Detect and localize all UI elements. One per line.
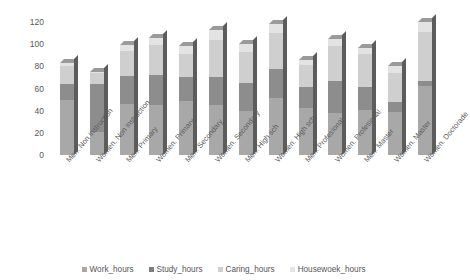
bar-segment-caring_hours xyxy=(149,45,163,75)
bar-segment-caring_hours xyxy=(299,65,313,87)
bar-segment-housewoek_hours xyxy=(149,38,163,46)
bar-segment-caring_hours xyxy=(90,73,104,84)
bar-segment-caring_hours xyxy=(358,54,372,87)
bar-segment-study_hours xyxy=(358,87,372,109)
bar-segment-housewoek_hours xyxy=(388,66,402,73)
bar-segment-work_hours xyxy=(60,100,74,155)
legend-label: Work_hours xyxy=(90,265,134,274)
legend-label: Caring_hours xyxy=(226,265,275,274)
x-axis-label-slot: Men. Secondary xyxy=(174,155,204,250)
x-axis-label-slot: Men. High sch xyxy=(234,155,264,250)
bar-segment-housewoek_hours xyxy=(209,30,223,40)
stacked-bar[interactable] xyxy=(388,66,402,155)
bar-segment-study_hours xyxy=(269,69,283,99)
bar-segment-study_hours xyxy=(149,75,163,105)
bar-segment-study_hours xyxy=(179,77,193,100)
bar-segment-caring_hours xyxy=(269,33,283,68)
bar-segment-study_hours xyxy=(239,83,253,111)
y-axis-tick-40: 40 xyxy=(35,106,44,115)
legend-label: Study_hours xyxy=(157,265,203,274)
bar-segment-study_hours xyxy=(120,76,134,104)
x-axis-label-slot: Women. Non instruction xyxy=(85,155,115,250)
x-axis-label-slot: Men. Profesional xyxy=(294,155,324,250)
y-axis-tick-120: 120 xyxy=(30,18,44,27)
y-axis-tick-0: 0 xyxy=(39,151,44,160)
bar-segment-housewoek_hours xyxy=(418,22,432,32)
bar-segment-housewoek_hours xyxy=(239,44,253,52)
legend-item-caring_hours[interactable]: Caring_hours xyxy=(218,265,275,274)
legend-swatch-icon xyxy=(290,267,295,272)
y-axis-tick-60: 60 xyxy=(35,84,44,93)
bar-segment-study_hours xyxy=(209,77,223,105)
bar-segment-caring_hours xyxy=(239,52,253,83)
bar-segment-caring_hours xyxy=(388,73,402,102)
y-axis-tick-100: 100 xyxy=(30,40,44,49)
y-axis-tick-80: 80 xyxy=(35,62,44,71)
bar-segment-housewoek_hours xyxy=(179,46,193,54)
x-axis-label-slot: Women. Primary xyxy=(145,155,175,250)
bar-segment-study_hours xyxy=(299,87,313,108)
chart-legend: Work_hoursStudy_hoursCaring_hoursHousewo… xyxy=(0,265,447,274)
legend-label: Housewoek_hours xyxy=(298,265,366,274)
stacked-bar[interactable] xyxy=(60,63,74,155)
x-axis-label-slot: Men. Primary xyxy=(115,155,145,250)
bar-slot xyxy=(55,22,85,155)
y-axis: 020406080100120 xyxy=(0,14,52,164)
bar-segment-housewoek_hours xyxy=(269,24,283,33)
y-axis-tick-20: 20 xyxy=(35,129,44,138)
bar-segment-caring_hours xyxy=(60,66,74,84)
bar-segment-caring_hours xyxy=(418,32,432,81)
legend-item-housewoek_hours[interactable]: Housewoek_hours xyxy=(290,265,366,274)
x-axis: Men. Non instructionWomen. Non instructi… xyxy=(55,155,443,250)
bar-segment-study_hours xyxy=(60,84,74,100)
bar-segment-caring_hours xyxy=(120,51,134,76)
legend-item-work_hours[interactable]: Work_hours xyxy=(82,265,134,274)
x-axis-label-slot: Men. Non instruction xyxy=(55,155,85,250)
x-axis-label-slot: Women. Doctorade xyxy=(413,155,443,250)
x-axis-label-slot: Women. High sch xyxy=(264,155,294,250)
legend-swatch-icon xyxy=(218,267,223,272)
x-axis-label-slot: Women. Master xyxy=(383,155,413,250)
legend-item-study_hours[interactable]: Study_hours xyxy=(149,265,203,274)
bar-segment-housewoek_hours xyxy=(358,48,372,55)
bar-segment-housewoek_hours xyxy=(328,39,342,47)
legend-swatch-icon xyxy=(149,267,154,272)
bar-segment-caring_hours xyxy=(179,54,193,77)
bar-segment-caring_hours xyxy=(328,46,342,80)
x-axis-label-slot: Men. Master xyxy=(353,155,383,250)
x-axis-label-slot: Women. Secondary xyxy=(204,155,234,250)
x-axis-label-slot: Women. Profesional xyxy=(324,155,354,250)
legend-swatch-icon xyxy=(82,267,87,272)
bar-segment-caring_hours xyxy=(209,40,223,78)
stacked-bar[interactable] xyxy=(299,60,313,155)
bar-segment-study_hours xyxy=(328,81,342,113)
bar-segment-study_hours xyxy=(388,102,402,112)
